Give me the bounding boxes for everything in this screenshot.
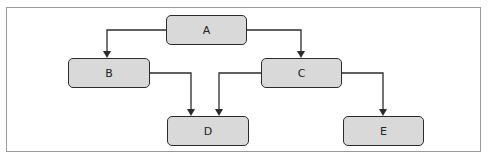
edge-c-to-e xyxy=(342,73,383,109)
arrowhead-icon xyxy=(215,109,223,116)
node-b-label: B xyxy=(105,67,113,80)
edge-a-to-b xyxy=(107,30,166,51)
node-c-label: C xyxy=(298,67,306,80)
arrowhead-icon xyxy=(297,51,305,58)
node-d-label: D xyxy=(204,125,212,138)
arrowhead-icon xyxy=(187,109,195,116)
node-b[interactable]: B xyxy=(68,58,150,88)
arrowhead-icon xyxy=(103,51,111,58)
edge-a-to-c xyxy=(247,30,301,51)
node-a[interactable]: A xyxy=(166,15,247,45)
node-a-label: A xyxy=(203,24,211,37)
node-d[interactable]: D xyxy=(167,116,249,146)
edge-c-to-d xyxy=(219,73,261,109)
node-e[interactable]: E xyxy=(343,116,424,146)
arrowhead-icon xyxy=(379,109,387,116)
node-c[interactable]: C xyxy=(261,58,342,88)
node-e-label: E xyxy=(380,125,387,138)
edge-b-to-d xyxy=(150,73,191,109)
